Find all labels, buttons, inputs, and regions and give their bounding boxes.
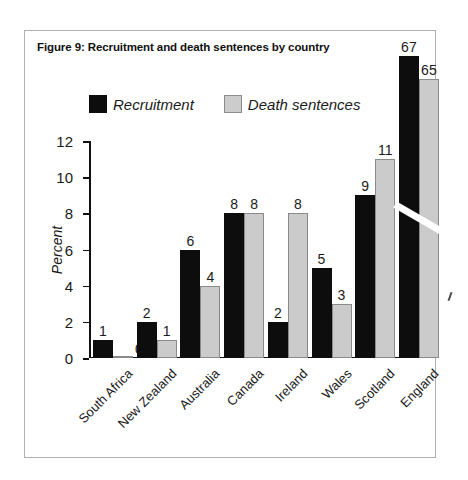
bar-value-label: 65 [421, 62, 437, 78]
bar-recruitment: 9 [355, 195, 375, 358]
y-tick-12: 12 [83, 141, 89, 143]
bar-group: 28Ireland [268, 141, 308, 358]
bar-group: 21New Zealand [137, 141, 177, 358]
x-category-label: Wales [318, 366, 354, 402]
bar-group: 911Scotland [355, 141, 395, 358]
bar-value-label: 11 [378, 142, 393, 158]
bar-recruitment: 8 [224, 213, 244, 358]
legend-label-death-sentences: Death sentences [248, 96, 361, 113]
plot-area: Percent 024681012 10South Africa21New Ze… [89, 141, 429, 358]
y-tick-4: 4 [83, 286, 89, 288]
bar-death-sentences: 65 [419, 79, 439, 358]
bar-death-sentences: 8 [244, 213, 264, 358]
bar-death-sentences: 3 [332, 304, 352, 358]
bar-death-sentences: 0 [113, 356, 133, 358]
bar-value-label: 3 [338, 287, 346, 303]
bar-value-label: 2 [143, 305, 151, 321]
y-tick-label-10: 10 [56, 169, 73, 186]
x-category-label: Canada [224, 366, 267, 409]
bar-value-label: 4 [206, 269, 214, 285]
bar-value-label: 5 [318, 251, 326, 267]
legend-entry-recruitment: Recruitment [89, 95, 194, 113]
x-category-label: England [397, 366, 441, 410]
y-tick-label-8: 8 [65, 205, 73, 222]
y-axis-line [89, 141, 91, 358]
figure-frame: Figure 9: Recruitment and death sentence… [24, 30, 436, 458]
bar-recruitment: 2 [268, 322, 288, 358]
bar-value-label: 67 [401, 39, 417, 55]
bar-value-label: 8 [230, 196, 238, 212]
bar-value-label: 2 [274, 305, 282, 321]
bar-group: 88Canada [224, 141, 264, 358]
figure-title: Figure 9: Recruitment and death sentence… [37, 41, 330, 53]
bar-value-label: 6 [186, 233, 194, 249]
x-category-label: Ireland [272, 366, 311, 405]
x-category-label: Australia [177, 366, 223, 412]
chart-legend: Recruitment Death sentences [89, 95, 360, 113]
y-tick-2: 2 [83, 322, 89, 324]
y-tick-label-0: 0 [65, 350, 73, 367]
legend-label-recruitment: Recruitment [113, 96, 194, 113]
legend-entry-death-sentences: Death sentences [224, 95, 361, 113]
bar-recruitment: 67 [399, 56, 419, 358]
bar-recruitment: 6 [180, 250, 200, 359]
y-tick-6: 6 [83, 250, 89, 252]
legend-swatch-recruitment [89, 95, 107, 113]
y-tick-label-4: 4 [65, 277, 73, 294]
bar-value-label: 9 [361, 178, 369, 194]
bar-value-label: 1 [163, 323, 171, 339]
x-category-label: Scotland [351, 366, 397, 412]
bar-value-label: 1 [99, 323, 107, 339]
y-axis-title: Percent [49, 225, 65, 273]
bar-recruitment: 1 [93, 340, 113, 358]
bar-group: 10South Africa [93, 141, 133, 358]
bar-death-sentences: 11 [375, 159, 395, 358]
y-tick-label-6: 6 [65, 241, 73, 258]
bar-value-label: 8 [250, 196, 258, 212]
y-tick-10: 10 [83, 177, 89, 179]
bar-group: 64Australia [180, 141, 220, 358]
y-tick-0: 0 [83, 358, 89, 360]
legend-swatch-death-sentences [224, 95, 242, 113]
bar-recruitment: 2 [137, 322, 157, 358]
y-tick-label-2: 2 [65, 313, 73, 330]
bar-recruitment: 5 [312, 268, 332, 358]
stray-scan-mark [448, 292, 453, 301]
y-tick-label-12: 12 [56, 133, 73, 150]
bar-value-label: 8 [294, 196, 302, 212]
bar-death-sentences: 8 [288, 213, 308, 358]
bar-death-sentences: 1 [157, 340, 177, 358]
bar-death-sentences: 4 [200, 286, 220, 358]
bar-group: 6765England [399, 141, 439, 358]
y-tick-8: 8 [83, 213, 89, 215]
bar-group: 53Wales [312, 141, 352, 358]
